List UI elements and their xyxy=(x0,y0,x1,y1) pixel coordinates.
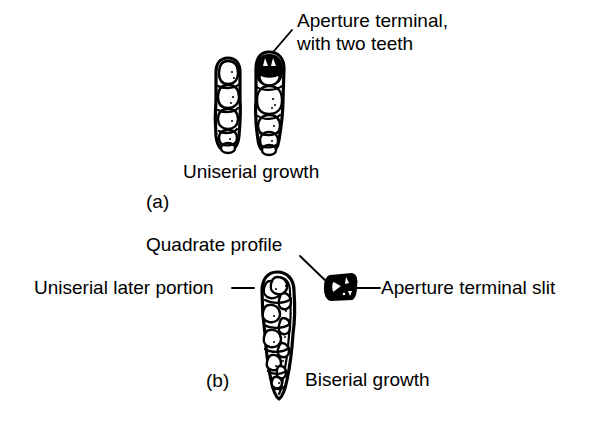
annotation-aperture-terminal-slit: Aperture terminal slit xyxy=(381,276,555,299)
annotation-line-2: with two teeth xyxy=(297,33,413,54)
panel-letter-a: (a) xyxy=(146,191,169,213)
stipple xyxy=(229,138,231,140)
stipple xyxy=(275,365,277,367)
stipple xyxy=(273,315,275,317)
figure-artwork xyxy=(0,0,595,432)
stipple xyxy=(273,125,275,127)
annotation-aperture-terminal-two-teeth: Aperture terminal,with two teeth xyxy=(297,9,448,55)
stipple xyxy=(272,98,274,100)
panel-letter-b: (b) xyxy=(206,370,229,392)
stipple xyxy=(231,120,233,122)
specimen-uniserial-right xyxy=(256,52,284,155)
stipple xyxy=(231,71,233,73)
chamber xyxy=(264,330,281,347)
chamber-apertural xyxy=(271,277,287,294)
stipple xyxy=(273,341,275,343)
annotation-uniserial-later-portion: Uniserial later portion xyxy=(34,276,214,299)
stipple xyxy=(230,102,232,104)
stipple xyxy=(232,96,234,98)
stipple xyxy=(275,288,277,290)
chamber xyxy=(219,61,238,84)
specimen-uniserial-left xyxy=(215,58,240,153)
specimen-biserial-test xyxy=(262,272,295,399)
chamber xyxy=(263,305,280,322)
stipple xyxy=(233,77,235,79)
stipple xyxy=(278,382,280,384)
section-mark xyxy=(343,293,346,296)
stipple xyxy=(285,285,287,287)
foraminifera-growth-figure: Aperture terminal,with two teeth Uniseri… xyxy=(0,0,595,432)
annotation-line-1: Aperture terminal, xyxy=(297,10,448,31)
caption-biserial-growth: Biserial growth xyxy=(305,368,430,391)
caption-uniserial-growth: Uniserial growth xyxy=(183,160,319,183)
stipple xyxy=(274,104,276,106)
stipple xyxy=(271,107,273,109)
stipple xyxy=(271,140,273,142)
stipple xyxy=(282,360,284,362)
stipple xyxy=(284,336,286,338)
specimen-quadrate-section xyxy=(325,274,356,300)
stipple xyxy=(285,310,287,312)
annotation-quadrate-profile: Quadrate profile xyxy=(146,233,282,256)
